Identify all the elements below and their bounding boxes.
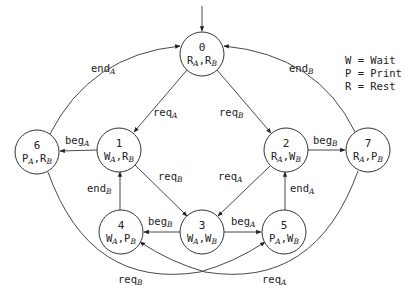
svg-text:endA: endA	[290, 182, 315, 196]
state-3: 3 WA,WB	[180, 210, 224, 254]
edge-label-2-3: reqA	[218, 170, 243, 184]
state-1: 1 WA,RB	[97, 128, 141, 172]
state-4: 4 WA,PB	[99, 210, 143, 254]
edge-label-5-2: endA	[290, 182, 315, 196]
svg-text:endB: endB	[289, 62, 314, 76]
edge-0-1	[134, 70, 187, 132]
svg-text:2: 2	[283, 137, 290, 150]
svg-text:7: 7	[365, 137, 372, 150]
svg-text:begB: begB	[148, 215, 173, 229]
state-6: 6 PA,RB	[15, 130, 59, 174]
edge-label-0-2: reqB	[219, 106, 244, 120]
edge-0-2	[217, 70, 271, 133]
edge-label-0-1: reqA	[153, 106, 178, 120]
svg-text:reqB: reqB	[219, 106, 244, 120]
edge-label-7-0: endB	[289, 62, 314, 76]
legend: W = Wait P = Print R = Rest	[345, 54, 402, 92]
edge-label-7-4: reqA	[262, 273, 287, 287]
svg-text:W = Wait: W = Wait	[345, 54, 396, 66]
edge-label-6-0: endA	[91, 62, 116, 76]
svg-text:5: 5	[281, 219, 288, 232]
svg-text:3: 3	[199, 219, 206, 232]
edge-label-3-5: begA	[231, 215, 256, 229]
edge-label-4-1: endB	[87, 182, 112, 196]
svg-text:begA: begA	[65, 134, 90, 148]
edge-6-0	[50, 46, 180, 134]
edge-label-6-5: reqB	[118, 273, 143, 287]
edge-label-2-7: begB	[313, 134, 338, 148]
svg-text:begA: begA	[231, 215, 256, 229]
state-7: 7 RA,PB	[346, 128, 390, 172]
svg-text:endA: endA	[91, 62, 116, 76]
svg-text:1: 1	[116, 137, 123, 150]
svg-text:6: 6	[34, 139, 41, 152]
svg-text:P = Print: P = Print	[345, 67, 402, 79]
edge-label-1-6: begA	[65, 134, 90, 148]
edge-label-3-4: begB	[148, 215, 173, 229]
svg-text:reqA: reqA	[218, 170, 243, 184]
svg-text:0: 0	[199, 41, 206, 54]
svg-text:4: 4	[118, 219, 125, 232]
edge-label-1-3: reqB	[158, 170, 183, 184]
svg-text:reqB: reqB	[118, 273, 143, 287]
svg-text:R = Rest: R = Rest	[345, 80, 396, 92]
edge-7-0	[224, 46, 355, 132]
svg-text:reqA: reqA	[262, 273, 287, 287]
svg-text:reqA: reqA	[153, 106, 178, 120]
state-diagram: reqA reqB begA begB reqB reqA begB begA …	[0, 0, 408, 298]
svg-text:begB: begB	[313, 134, 338, 148]
svg-text:endB: endB	[87, 182, 112, 196]
state-5: 5 PA,WB	[262, 210, 306, 254]
edge-1-6	[60, 150, 97, 151]
state-2: 2 RA,WB	[264, 128, 308, 172]
state-0: 0 RA,RB	[180, 32, 224, 76]
svg-text:reqB: reqB	[158, 170, 183, 184]
